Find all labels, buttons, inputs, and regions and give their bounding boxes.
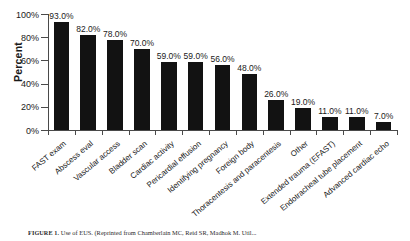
y-axis-tick: 40%	[41, 84, 48, 85]
y-axis-tick: 20%	[41, 107, 48, 108]
bar-value-label: 59.0%	[184, 51, 208, 61]
figure-caption-label: FIGURE 1.	[28, 229, 59, 236]
y-axis-tick: 0%	[41, 130, 48, 131]
bar-value-label: 70.0%	[130, 38, 154, 48]
bar-value-label: 82.0%	[76, 24, 100, 34]
bar-value-label: 56.0%	[210, 54, 234, 64]
y-axis-tick: 100%	[41, 14, 48, 15]
y-axis-tick-label: 80%	[21, 33, 39, 43]
y-axis-tick: 60%	[41, 60, 48, 61]
figure-container: Percent 0%20%40%60%80%100% 93.0%82.0%78.…	[0, 0, 410, 241]
y-axis-tick-label: 20%	[21, 102, 39, 112]
bar: 93.0%	[54, 22, 70, 130]
bar: 11.0%	[322, 117, 338, 130]
x-axis-category-label-text: Other	[289, 139, 310, 159]
bar-value-label: 93.0%	[49, 11, 73, 21]
bar-chart: Percent 0%20%40%60%80%100% 93.0%82.0%78.…	[0, 0, 410, 224]
y-axis-tick-label: 40%	[21, 79, 39, 89]
plot-area: 93.0%82.0%78.0%70.0%59.0%59.0%56.0%48.0%…	[48, 14, 397, 130]
figure-caption-text: Use of EUS. (Reprinted from Chamberlain …	[61, 229, 257, 236]
x-axis-tick	[48, 131, 49, 135]
y-axis-tick-label: 60%	[21, 56, 39, 66]
bar-value-label: 19.0%	[291, 97, 315, 107]
y-axis-tick-label: 0%	[26, 126, 39, 136]
bar-value-label: 59.0%	[157, 51, 181, 61]
bar-value-label: 48.0%	[237, 63, 261, 73]
bar-value-label: 78.0%	[103, 29, 127, 39]
y-axis-tick-label: 100%	[16, 10, 39, 20]
figure-caption: FIGURE 1. Use of EUS. (Reprinted from Ch…	[28, 229, 408, 237]
y-axis-tick: 80%	[41, 37, 48, 38]
